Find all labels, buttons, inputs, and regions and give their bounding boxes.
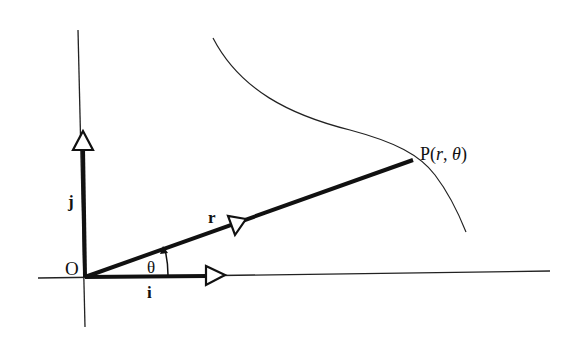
polar-diagram xyxy=(0,0,578,340)
vector-r-arrowhead xyxy=(228,216,246,235)
origin-label: O xyxy=(65,259,79,278)
vector-j xyxy=(83,148,85,277)
position-vector-label: r xyxy=(208,209,216,226)
point-P-suffix: ) xyxy=(461,144,467,164)
curve xyxy=(213,38,466,232)
angle-label: θ xyxy=(147,259,155,276)
vector-i xyxy=(85,276,207,277)
vector-i-arrowhead xyxy=(206,266,225,285)
point-P-label: P(r, θ) xyxy=(420,145,467,163)
point-P-sep: , xyxy=(443,144,452,164)
vector-r xyxy=(85,160,413,277)
unit-i-label: i xyxy=(147,284,152,301)
angle-arc xyxy=(165,250,168,275)
unit-j-label: j xyxy=(68,193,74,210)
vector-j-arrowhead xyxy=(73,131,93,150)
point-P-theta: θ xyxy=(452,144,461,164)
point-P-r: r xyxy=(436,144,443,164)
point-P-prefix: P( xyxy=(420,144,436,164)
